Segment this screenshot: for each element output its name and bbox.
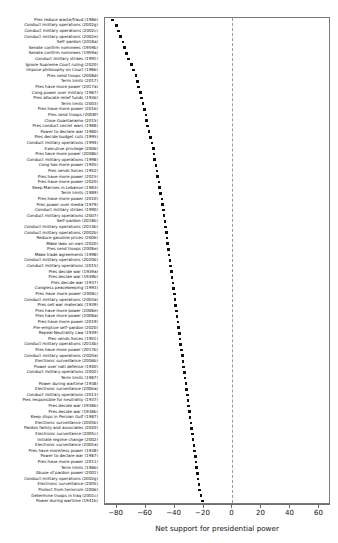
data-point xyxy=(155,164,158,167)
data-point xyxy=(169,265,172,268)
x-tick-label: −40 xyxy=(166,509,181,517)
data-point xyxy=(201,500,204,503)
data-point xyxy=(111,19,114,22)
data-point xyxy=(198,489,201,492)
data-point xyxy=(174,298,177,301)
data-point xyxy=(161,198,164,201)
x-tick xyxy=(231,504,232,508)
data-point xyxy=(193,450,196,453)
x-tick-label: −20 xyxy=(195,509,210,517)
data-point xyxy=(139,91,142,94)
data-point xyxy=(188,410,191,413)
x-tick-label: −60 xyxy=(137,509,152,517)
data-point xyxy=(190,422,193,425)
x-tick-label: 40 xyxy=(285,509,294,517)
x-tick xyxy=(145,504,146,508)
data-point xyxy=(159,192,162,195)
x-tick-label: 20 xyxy=(256,509,265,517)
data-point xyxy=(130,63,133,66)
data-point xyxy=(187,405,190,408)
x-tick xyxy=(116,504,117,508)
x-axis-line xyxy=(104,504,330,505)
data-point xyxy=(198,483,201,486)
data-point xyxy=(185,382,188,385)
x-tick-label: 60 xyxy=(314,509,323,517)
data-point xyxy=(132,69,135,72)
data-point xyxy=(182,360,185,363)
data-point xyxy=(195,461,198,464)
data-point xyxy=(165,231,168,234)
data-point xyxy=(161,203,164,206)
data-point xyxy=(135,74,138,77)
x-tick xyxy=(174,504,175,508)
data-point xyxy=(200,494,203,497)
data-point xyxy=(187,399,190,402)
data-point xyxy=(149,136,152,139)
data-point xyxy=(146,125,149,128)
x-tick-label: −80 xyxy=(108,509,123,517)
data-point xyxy=(164,226,167,229)
data-point xyxy=(168,254,171,257)
data-rows: Pres reduce waste/fraud (1986)Conduct mi… xyxy=(0,17,338,504)
data-point xyxy=(172,287,175,290)
data-point xyxy=(177,321,180,324)
data-point xyxy=(186,394,189,397)
data-point xyxy=(119,35,122,38)
data-point xyxy=(192,438,195,441)
data-point xyxy=(197,478,200,481)
data-point xyxy=(170,270,173,273)
data-point xyxy=(152,147,155,150)
data-point xyxy=(172,282,175,285)
x-tick xyxy=(260,504,261,508)
data-point xyxy=(184,377,187,380)
data-point xyxy=(185,388,188,391)
data-point xyxy=(182,366,185,369)
data-point xyxy=(180,349,183,352)
data-point xyxy=(145,114,148,117)
data-point xyxy=(153,153,156,156)
data-point xyxy=(140,97,143,100)
data-point xyxy=(125,52,128,55)
data-point xyxy=(179,343,182,346)
row-label: Power during wartime (1941b) xyxy=(36,499,98,503)
data-point xyxy=(156,170,159,173)
data-point xyxy=(178,332,181,335)
x-tick xyxy=(318,504,319,508)
data-point xyxy=(193,444,196,447)
data-point xyxy=(117,30,120,33)
data-point xyxy=(176,315,179,318)
x-tick-label: 0 xyxy=(229,509,233,517)
data-point xyxy=(181,354,184,357)
data-point xyxy=(137,86,140,89)
data-point xyxy=(169,259,172,262)
data-point xyxy=(151,142,154,145)
data-point xyxy=(142,102,145,105)
data-point xyxy=(153,158,156,161)
data-point xyxy=(167,248,170,251)
data-point xyxy=(162,209,165,212)
data-point xyxy=(195,466,198,469)
data-point xyxy=(123,46,126,49)
data-point xyxy=(122,41,125,44)
x-tick xyxy=(289,504,290,508)
data-point xyxy=(173,293,176,296)
data-point xyxy=(174,304,177,307)
data-point xyxy=(171,276,174,279)
data-point xyxy=(189,416,192,419)
data-point xyxy=(175,310,178,313)
data-point xyxy=(115,24,118,27)
data-point xyxy=(148,130,151,133)
x-tick xyxy=(203,504,204,508)
data-point xyxy=(183,371,186,374)
data-point xyxy=(166,242,169,245)
data-point xyxy=(158,186,161,189)
data-point xyxy=(136,80,139,83)
data-point xyxy=(127,58,130,61)
data-point xyxy=(156,175,159,178)
data-point xyxy=(164,220,167,223)
data-point xyxy=(177,326,180,329)
data-point xyxy=(196,472,199,475)
data-point xyxy=(179,338,182,341)
data-point xyxy=(145,119,148,122)
data-point xyxy=(190,427,193,430)
